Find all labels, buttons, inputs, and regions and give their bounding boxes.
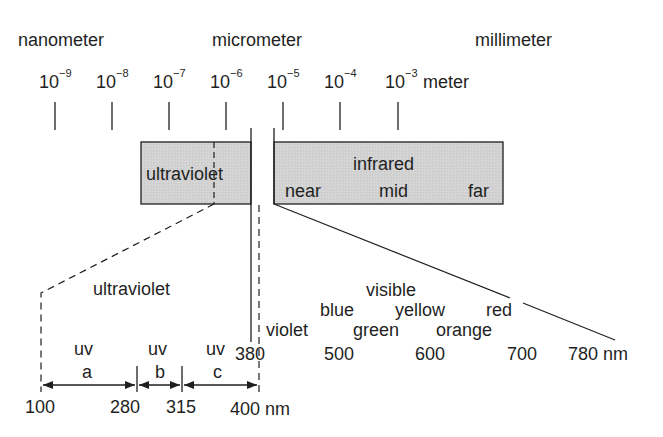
ultraviolet-box-label: ultraviolet [146,164,223,184]
infrared-near-label: near [285,181,321,201]
scale-base: 10 [153,72,173,92]
scale-exponent: −6 [230,67,243,79]
uv-tick-280: 280 [110,397,140,417]
uv-band-label: uv [74,339,93,359]
unit-label-micrometer: micrometer [212,30,302,50]
visible-tick-700: 700 [507,344,537,364]
color-green: green [353,320,399,340]
scale-exponent: −4 [344,67,357,79]
scale-unit: meter [423,72,469,92]
scale-ticks [55,102,398,130]
uv-tick-100: 100 [25,397,55,417]
color-red: red [486,300,512,320]
scale-base: 10 [210,72,230,92]
infrared-far-label: far [468,181,489,201]
unit-label-millimeter: millimeter [475,30,552,50]
color-blue: blue [320,300,354,320]
visible-tick-600: 600 [415,344,445,364]
visible-tick-500: 500 [324,344,354,364]
scale-exponent: −7 [173,67,186,79]
scale-base: 10 [324,72,344,92]
visible-tick-780nm: 780 nm [568,344,628,364]
color-yellow: yellow [395,300,446,320]
infrared-mid-label: mid [379,181,408,201]
uv-tick-400nm: 400 nm [230,399,290,419]
scale-exponent: −3 [405,67,418,79]
scale-exponent: −8 [116,67,129,79]
visible-title: visible [366,280,416,300]
uv-detail-title: ultraviolet [93,279,170,299]
scale-base: 10 [385,72,405,92]
scale-base: 10 [267,72,287,92]
visible-tick-380: 380 [235,344,265,364]
scale-exponent: −5 [287,67,300,79]
scale-labels: 10 −9 10 −8 10 −7 10 −6 10 −5 10 −4 10 −… [39,67,469,92]
color-orange: orange [436,320,492,340]
visible-expansion-line [523,303,615,340]
uv-band-label: uv [148,339,167,359]
uv-tick-315: 315 [166,397,196,417]
scale-base: 10 [39,72,59,92]
color-violet: violet [266,320,308,340]
em-spectrum-diagram: nanometer micrometer millimeter 10 −9 10… [0,0,663,437]
scale-exponent: −9 [59,67,72,79]
uv-c-letter: c [213,362,222,382]
unit-label-nanometer: nanometer [18,30,104,50]
uv-b-letter: b [155,362,165,382]
uv-a-letter: a [82,362,93,382]
scale-base: 10 [96,72,116,92]
uv-band-label: uv [206,339,225,359]
infrared-box-title: infrared [353,154,414,174]
